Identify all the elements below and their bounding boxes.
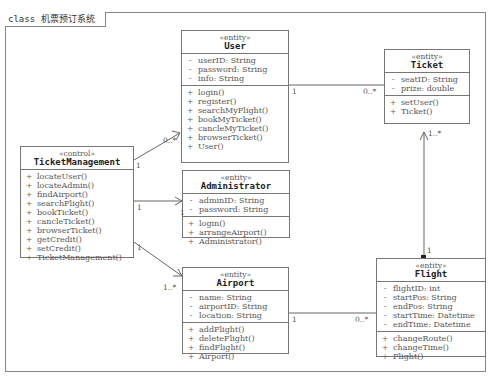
mult-user-ticket-dst: 0..* <box>363 87 376 96</box>
class-name: Administrator <box>183 182 289 191</box>
mult-tm-airport-src: 1 <box>137 243 142 252</box>
mult-flight-ticket-dst: 1..* <box>428 129 441 138</box>
class-name: User <box>182 42 288 51</box>
class-name: TicketManagement <box>21 158 133 167</box>
class-ticket[interactable]: «entity» Ticket -seatID: String -prize: … <box>384 49 470 124</box>
operations: +addFlight() +deleteFlight() +findFlight… <box>183 322 288 363</box>
attributes: -adminID: String -password: String <box>183 194 289 216</box>
mult-airport-flight-dst: 0..* <box>355 315 368 324</box>
mult-user-ticket-src: 1 <box>292 87 297 96</box>
class-flight[interactable]: «entity» Flight -flightID: int -startPos… <box>376 258 486 357</box>
attributes: -userID: String -password: String -info:… <box>182 54 288 85</box>
attributes: -name: String -airportID: String -locati… <box>183 291 288 322</box>
class-airport[interactable]: «entity» Airport -name: String -airportI… <box>182 267 289 354</box>
operations: +locateUser() +locateAdmin() +findAirpor… <box>21 170 133 264</box>
attributes: -seatID: String -prize: double <box>385 73 469 95</box>
mult-tm-admin-src: 1 <box>137 203 142 212</box>
mult-tm-admin-dst: 1 <box>180 208 185 217</box>
mult-flight-ticket-src: 1 <box>427 246 432 255</box>
class-name: Airport <box>183 279 288 288</box>
class-name: Ticket <box>385 61 469 70</box>
attributes: -flightID: int -startPos: String -endPos… <box>377 282 485 331</box>
class-name: Flight <box>377 270 485 279</box>
operations: +login() +register() +searchMyFlight() +… <box>182 85 288 153</box>
operations: +setUser() +Ticket() <box>385 95 469 118</box>
class-ticketmanagement[interactable]: «control» TicketManagement +locateUser()… <box>20 146 134 258</box>
mult-tm-airport-dst: 1..* <box>163 283 176 292</box>
operations: +login() +arrangeAirport() +Administrato… <box>183 216 289 248</box>
mult-airport-flight-src: 1 <box>292 315 297 324</box>
class-administrator[interactable]: «entity» Administrator -adminID: String … <box>182 170 290 238</box>
mult-tm-user-src: 1 <box>136 161 141 170</box>
operations: +changeRoute() +changeTime() +Flight() <box>377 331 485 363</box>
class-user[interactable]: «entity» User -userID: String -password:… <box>181 30 289 163</box>
mult-tm-user-dst: 0..* <box>163 136 176 145</box>
